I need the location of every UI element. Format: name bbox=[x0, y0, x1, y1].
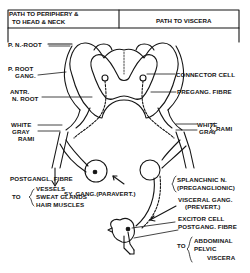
label-antr-n-root-1: ANTR. bbox=[10, 88, 29, 95]
label-splanchnic-2: (PREGANGLIONIC) bbox=[177, 184, 235, 191]
label-viscera: VISCERA bbox=[207, 254, 235, 261]
label-sweat-glands: SWEAT GLANDS bbox=[36, 193, 87, 200]
header-path-viscera: PATH TO VISCERA bbox=[156, 17, 211, 24]
label-white-left: WHITE bbox=[11, 121, 31, 128]
label-to-left: TO bbox=[12, 193, 21, 200]
label-gray-right: GRAY bbox=[199, 128, 217, 135]
label-p-root-gang-1: P. ROOT bbox=[8, 65, 33, 72]
label-p-n-root: P. N.-ROOT bbox=[8, 41, 42, 48]
label-rami-right: RAMI bbox=[216, 125, 232, 132]
label-white-right: WHITE bbox=[197, 121, 217, 128]
label-to-right: TO bbox=[177, 242, 186, 249]
label-abdominal: ABDOMINAL bbox=[194, 237, 233, 244]
visceral-ganglion bbox=[111, 218, 135, 242]
label-visceral-gang-2: (PREVERT.) bbox=[185, 203, 220, 210]
label-gray-left: GRAY bbox=[12, 128, 30, 135]
sympathetic-nervous-system-diagram: PATH TO PERIPHERY & TO HEAD & NECK PATH … bbox=[0, 0, 250, 273]
label-p-root-gang-2: GANG. bbox=[15, 72, 36, 79]
label-postgangl-fibre: POSTGANGL. FIBRE bbox=[10, 175, 73, 182]
label-hair-muscles: HAIR MUSCLES bbox=[36, 201, 84, 208]
header-path-periphery-line1: PATH TO PERIPHERY & bbox=[9, 10, 78, 17]
label-pelvic: PELVIC bbox=[194, 245, 217, 252]
label-pregang-fibre: PREGANG. FIBRE bbox=[177, 88, 232, 95]
label-antr-n-root-2: N. ROOT bbox=[12, 95, 38, 102]
label-visceral-gang-1: VISCERAL GANG. bbox=[178, 196, 233, 203]
label-postgang-fibre-right: POSTGANG. FIBRE bbox=[178, 223, 237, 230]
label-excitor-cell: EXCITOR CELL bbox=[178, 215, 224, 222]
header-path-periphery-line2: TO HEAD & NECK bbox=[12, 18, 65, 25]
label-splanchnic-1: SPLANCHNIC N. bbox=[177, 176, 227, 183]
label-connector-cell: CONNECTOR CELL bbox=[176, 71, 235, 78]
label-rami-left: RAMI bbox=[18, 135, 34, 142]
label-vessels: VESSELS bbox=[36, 185, 65, 192]
